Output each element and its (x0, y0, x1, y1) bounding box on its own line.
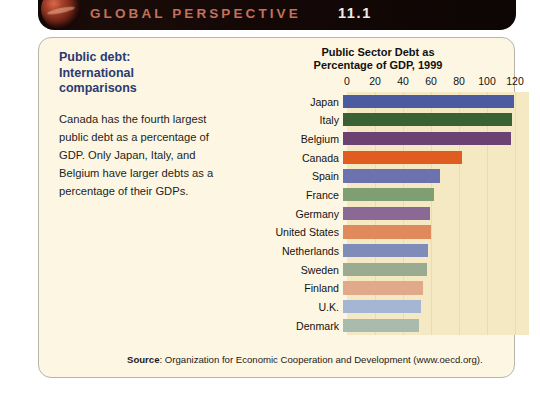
bar-label-canada: Canada (225, 152, 343, 164)
bar-track (343, 167, 505, 186)
bar-track (343, 148, 505, 167)
bar-series: JapanItalyBelgiumCanadaSpainFranceGerman… (225, 92, 505, 335)
bar-track (343, 316, 505, 335)
bar-label-germany: Germany (225, 208, 343, 220)
bar-japan (343, 95, 514, 108)
bar-france (343, 188, 434, 201)
bar-spain (343, 169, 440, 182)
content-panel: Public debt: International comparisons C… (38, 37, 515, 378)
bar-track (343, 242, 505, 261)
bar-row: Canada (225, 148, 505, 167)
x-axis-tick-80: 80 (453, 75, 465, 87)
bar-chart: Public Sector Debt as Percentage of GDP,… (225, 46, 505, 346)
gridline (515, 92, 516, 335)
chart-title: Public Sector Debt as Percentage of GDP,… (251, 46, 505, 71)
x-axis-tick-120: 120 (506, 75, 524, 87)
bar-row: Italy (225, 111, 505, 130)
bar-sweden (343, 263, 427, 276)
bar-row: United States (225, 223, 505, 242)
bar-row: Netherlands (225, 242, 505, 261)
bar-finland (343, 281, 423, 294)
x-axis-tick-0: 0 (344, 75, 350, 87)
banner-number: 11.1 (338, 5, 372, 21)
x-axis-tick-labels: 020406080100120 (225, 75, 505, 91)
bar-label-united-states: United States (225, 226, 343, 238)
globe-icon (41, 0, 81, 29)
bar-row: Sweden (225, 260, 505, 279)
bar-label-denmark: Denmark (225, 320, 343, 332)
bar-label-italy: Italy (225, 114, 343, 126)
bar-row: Spain (225, 167, 505, 186)
bar-germany (343, 207, 430, 220)
bar-netherlands (343, 244, 428, 257)
source-label: Source (127, 354, 160, 365)
x-axis-tick-60: 60 (425, 75, 437, 87)
bar-row: U.K. (225, 298, 505, 317)
page-title: Public debt: International comparisons (59, 50, 231, 97)
bar-track (343, 130, 505, 149)
bar-track (343, 186, 505, 205)
bar-label-u-k-: U.K. (225, 301, 343, 313)
global-perspective-banner: GLOBAL PERSPECTIVE 11.1 (38, 0, 516, 30)
bar-track (343, 279, 505, 298)
bar-row: Finland (225, 279, 505, 298)
bar-label-finland: Finland (225, 282, 343, 294)
bar-label-belgium: Belgium (225, 133, 343, 145)
bar-row: Denmark (225, 316, 505, 335)
bar-italy (343, 113, 512, 126)
x-axis-tick-40: 40 (397, 75, 409, 87)
bar-row: Japan (225, 92, 505, 111)
sidebar-text-column: Public debt: International comparisons C… (59, 50, 231, 201)
bar-label-netherlands: Netherlands (225, 245, 343, 257)
bar-track (343, 111, 505, 130)
bar-track (343, 260, 505, 279)
banner-title: GLOBAL PERSPECTIVE (90, 6, 301, 21)
bar-row: Germany (225, 204, 505, 223)
bar-denmark (343, 319, 419, 332)
source-note: Source: Organization for Economic Cooper… (127, 354, 483, 365)
x-axis-tick-20: 20 (369, 75, 381, 87)
bar-label-france: France (225, 189, 343, 201)
bar-track (343, 298, 505, 317)
bar-label-spain: Spain (225, 170, 343, 182)
bar-label-japan: Japan (225, 96, 343, 108)
bar-u-k- (343, 300, 421, 313)
bar-label-sweden: Sweden (225, 264, 343, 276)
bar-canada (343, 151, 462, 164)
bar-track (343, 92, 505, 111)
plot-area: JapanItalyBelgiumCanadaSpainFranceGerman… (225, 92, 505, 335)
x-axis-tick-100: 100 (478, 75, 496, 87)
bar-track (343, 223, 505, 242)
bar-united-states (343, 225, 431, 238)
source-text: : Organization for Economic Cooperation … (160, 354, 483, 365)
bar-row: Belgium (225, 130, 505, 149)
sidebar-body-text: Canada has the fourth largest public deb… (59, 110, 231, 201)
bar-row: France (225, 186, 505, 205)
bar-belgium (343, 132, 511, 145)
bar-track (343, 204, 505, 223)
